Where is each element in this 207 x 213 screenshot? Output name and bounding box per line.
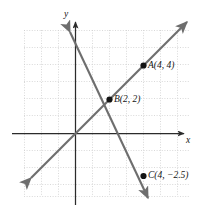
point-b-label-text: B(2, 2) <box>114 94 140 104</box>
point-c-label: C(4, −2.5) <box>148 171 188 181</box>
point-a-marker <box>140 62 146 68</box>
x-axis-label: x <box>186 136 190 146</box>
point-c-marker <box>140 173 146 179</box>
point-a-label-text: A(4, 4) <box>148 60 174 70</box>
series-line-2 <box>70 32 148 198</box>
point-c-label-text: C(4, −2.5) <box>148 170 188 180</box>
graph-figure: A(4, 4) B(2, 2) C(4, −2.5) y x <box>0 0 207 213</box>
coordinate-plane-svg <box>0 0 207 213</box>
point-b-label: B(2, 2) <box>114 95 140 105</box>
y-axis-label: y <box>64 10 68 20</box>
point-a-label: A(4, 4) <box>148 61 174 71</box>
point-b-marker <box>106 96 112 102</box>
